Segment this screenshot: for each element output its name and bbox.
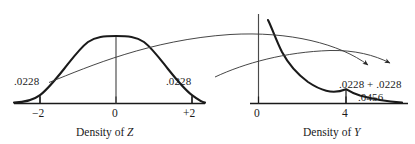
z-tick-label-minus2: −2 bbox=[32, 108, 44, 120]
tail-sum-result: .0456 bbox=[358, 92, 383, 103]
tail-sum-expression: .0228 + .0228 bbox=[339, 79, 402, 90]
y-tick-label-zero: 0 bbox=[254, 108, 260, 120]
z-axis-title-prefix: Density of bbox=[76, 126, 127, 138]
connector-group bbox=[49, 34, 390, 83]
z-right-tail-probability: .0228 bbox=[166, 76, 191, 87]
normal-density-curve bbox=[14, 36, 205, 103]
z-tick-label-zero: 0 bbox=[112, 108, 118, 120]
y-axis-title-variable: Y bbox=[354, 126, 360, 138]
connector-left-tail-arrow bbox=[49, 34, 368, 83]
figure-canvas bbox=[0, 0, 415, 144]
right-panel-group bbox=[250, 14, 408, 104]
z-axis-title-variable: Z bbox=[127, 126, 133, 138]
z-tick-label-plus2: +2 bbox=[183, 108, 195, 120]
z-left-tail-probability: .0228 bbox=[14, 76, 39, 87]
left-panel-group bbox=[14, 36, 205, 104]
y-axis-title-prefix: Density of bbox=[303, 126, 354, 138]
z-axis-title: Density of Z bbox=[76, 127, 134, 139]
y-axis-title: Density of Y bbox=[303, 127, 361, 139]
connector-right-tail-arrow bbox=[215, 50, 390, 77]
density-comparison-figure: .0228 .0228 −2 0 +2 Density of Z 0 4 .02… bbox=[0, 0, 415, 144]
y-tick-label-four: 4 bbox=[342, 108, 348, 120]
